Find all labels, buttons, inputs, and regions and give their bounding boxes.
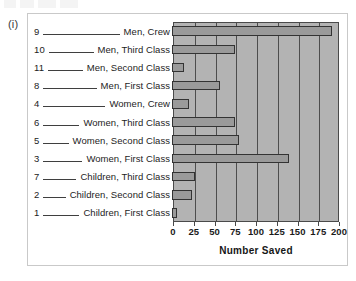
row-category-label: Children, Third Class — [80, 171, 170, 182]
row-rank-number: 3 — [28, 153, 39, 164]
row-rank-number: 10 — [28, 44, 45, 55]
figure-label: (i) — [8, 18, 18, 30]
leader-line — [43, 143, 68, 144]
x-tick-label: 25 — [188, 226, 199, 237]
row-rank-number: 4 — [28, 98, 39, 109]
row-category-label: Men, Third Class — [98, 44, 170, 55]
leader-line — [49, 52, 94, 53]
x-tick-label: 200 — [331, 226, 347, 237]
gridline — [257, 23, 258, 221]
row-label: 10Men, Third Class — [28, 40, 173, 58]
row-category-label: Children, First Class — [83, 207, 170, 218]
row-label: 3Women, First Class — [28, 149, 173, 167]
row-label: 5Women, Second Class — [28, 131, 173, 149]
scan-artifact-strip — [4, 0, 114, 8]
row-label: 9Men, Crew — [28, 22, 173, 40]
leader-line — [43, 88, 96, 89]
leader-line — [43, 197, 65, 198]
row-label: 2Children, Second Class — [28, 186, 173, 204]
row-rank-number: 6 — [28, 117, 39, 128]
row-label: 6Women, Third Class — [28, 113, 173, 131]
leader-line — [48, 70, 83, 71]
row-label: 4Women, Crew — [28, 95, 173, 113]
plot-area — [173, 22, 339, 222]
gridline — [236, 23, 237, 221]
row-rank-number: 7 — [28, 171, 39, 182]
gridline — [319, 23, 320, 221]
x-axis — [173, 222, 339, 223]
leader-line — [43, 106, 105, 107]
row-category-label: Women, Third Class — [83, 117, 170, 128]
leader-line — [43, 125, 79, 126]
x-tick-label: 0 — [170, 226, 175, 237]
row-label: 8Men, First Class — [28, 77, 173, 95]
row-rank-number: 9 — [28, 26, 39, 37]
row-category-label: Women, Crew — [109, 98, 170, 109]
row-rank-number: 5 — [28, 135, 39, 146]
leader-line — [43, 179, 76, 180]
leader-line — [43, 215, 79, 216]
x-tick-label: 50 — [209, 226, 220, 237]
row-label: 1Children, First Class — [28, 204, 173, 222]
row-rank-number: 11 — [28, 62, 44, 73]
gridline — [195, 23, 196, 221]
leader-line — [43, 34, 119, 35]
x-tick-label: 150 — [290, 226, 306, 237]
x-axis-tick-labels: 0255075100125150175200 — [173, 226, 339, 240]
row-rank-number: 8 — [28, 80, 39, 91]
gridlines — [174, 23, 338, 221]
x-tick-label: 100 — [248, 226, 264, 237]
row-category-label: Men, Crew — [124, 26, 170, 37]
x-axis-title: Number Saved — [173, 245, 339, 256]
row-category-label: Women, First Class — [86, 153, 170, 164]
row-label: 7Children, Third Class — [28, 168, 173, 186]
row-category-label: Men, First Class — [101, 80, 170, 91]
x-tick-label: 125 — [269, 226, 285, 237]
row-category-label: Men, Second Class — [87, 62, 170, 73]
gridline — [299, 23, 300, 221]
row-rank-number: 2 — [28, 189, 39, 200]
gridline — [278, 23, 279, 221]
gridline — [216, 23, 217, 221]
row-rank-number: 1 — [28, 207, 39, 218]
x-tick-label: 75 — [230, 226, 241, 237]
leader-line — [43, 161, 82, 162]
row-category-label: Children, Second Class — [70, 189, 170, 200]
row-label: 11Men, Second Class — [28, 58, 173, 76]
row-category-label: Women, Second Class — [73, 135, 170, 146]
x-tick-label: 175 — [310, 226, 326, 237]
figure-panel: 9Men, Crew10Men, Third Class11Men, Secon… — [27, 13, 348, 266]
